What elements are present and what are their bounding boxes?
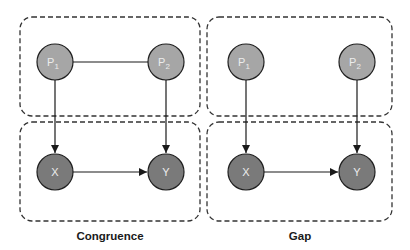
svg-text:Y: Y bbox=[353, 166, 361, 178]
panel-congruence: P1 P2 X Y Congruence bbox=[20, 17, 200, 242]
node-x: X bbox=[228, 154, 264, 190]
node-y: Y bbox=[339, 154, 375, 190]
node-x: X bbox=[37, 154, 73, 190]
svg-text:Y: Y bbox=[162, 166, 170, 178]
node-p1: P1 bbox=[37, 44, 73, 80]
svg-text:X: X bbox=[51, 166, 59, 178]
node-p1: P1 bbox=[228, 44, 264, 80]
panel-gap: P1 P2 X Y Gap bbox=[207, 17, 392, 242]
caption-gap: Gap bbox=[289, 230, 311, 242]
node-p2: P2 bbox=[148, 44, 184, 80]
diagram-canvas: P1 P2 X Y Congruence P1 P2 bbox=[0, 0, 410, 250]
node-p2: P2 bbox=[339, 44, 375, 80]
node-y: Y bbox=[148, 154, 184, 190]
caption-congruence: Congruence bbox=[76, 230, 143, 242]
svg-text:X: X bbox=[242, 166, 250, 178]
